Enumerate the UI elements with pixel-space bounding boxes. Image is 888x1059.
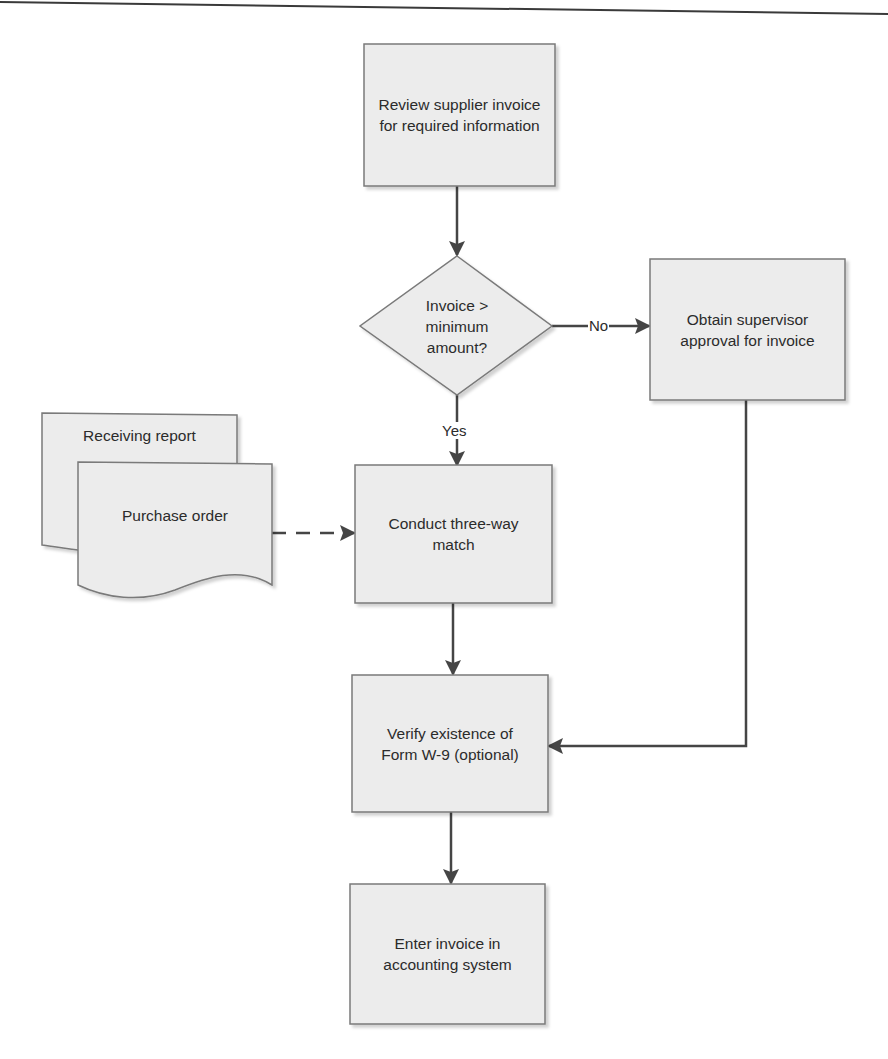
node-verify-label: Verify existence of Form W-9 (optional) (352, 675, 548, 812)
node-review-label: Review supplier invoice for required inf… (364, 44, 555, 186)
node-enter-label: Enter invoice in accounting system (350, 884, 545, 1024)
node-supervisor-label: Obtain supervisor approval for invoice (650, 259, 845, 400)
node-decision-label: Invoice > minimum amount? (405, 276, 509, 376)
edge-label-no: No (588, 317, 609, 334)
node-receiving-report-label: Receiving report (42, 420, 237, 450)
node-three-way-label: Conduct three-way match (355, 465, 552, 603)
header-rule (0, 2, 888, 14)
node-purchase-order-label: Purchase order (78, 500, 272, 530)
edge-label-yes: Yes (441, 422, 467, 439)
edge-supervisor-to-verify (549, 400, 746, 746)
